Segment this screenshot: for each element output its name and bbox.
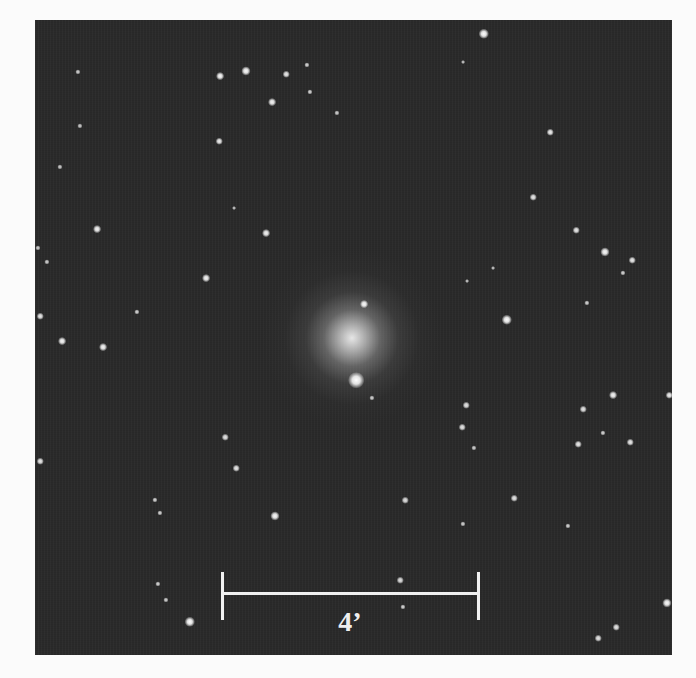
star xyxy=(397,577,404,584)
star xyxy=(613,624,620,631)
star xyxy=(547,129,554,136)
star xyxy=(491,266,495,270)
star xyxy=(233,465,240,472)
star xyxy=(463,402,470,409)
star xyxy=(465,279,469,283)
star xyxy=(58,337,66,345)
star xyxy=(93,225,101,233)
star xyxy=(360,300,368,308)
astronomical-image: 4’ xyxy=(35,20,672,655)
star xyxy=(222,434,229,441)
star xyxy=(627,439,634,446)
star xyxy=(573,227,580,234)
star xyxy=(666,392,672,399)
star xyxy=(99,343,107,351)
star xyxy=(37,458,44,465)
star xyxy=(283,71,290,78)
star xyxy=(595,635,602,642)
star xyxy=(262,229,270,237)
star xyxy=(530,194,537,201)
star xyxy=(202,274,210,282)
star xyxy=(575,441,582,448)
elliptical-galaxy xyxy=(261,247,443,429)
star xyxy=(459,424,466,431)
star xyxy=(461,60,465,64)
star xyxy=(37,313,44,320)
star xyxy=(268,98,276,106)
star xyxy=(609,391,617,399)
star xyxy=(580,406,587,413)
star xyxy=(348,372,364,388)
star xyxy=(216,72,224,80)
star xyxy=(629,257,636,264)
star xyxy=(511,495,518,502)
star xyxy=(402,497,409,504)
star xyxy=(216,138,223,145)
star xyxy=(232,206,236,210)
